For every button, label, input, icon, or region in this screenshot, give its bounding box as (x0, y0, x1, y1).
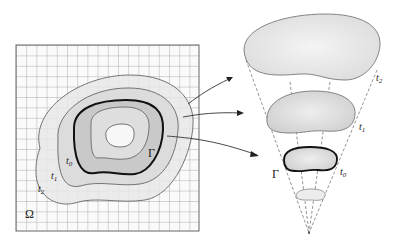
slice-label-t1: t1 (359, 121, 365, 134)
level-set-diagram: Ω Γ t0 t1 t2 t2 t1 t0 Γ (0, 0, 399, 247)
slice-t1 (267, 91, 355, 133)
front-label-gamma-right: Γ (272, 167, 279, 181)
slice-t0-front (284, 147, 337, 171)
cone-apex (308, 232, 310, 234)
slice-label-t0: t0 (340, 166, 347, 179)
front-label-gamma-left: Γ (148, 146, 155, 160)
arrow-heads (226, 77, 259, 157)
domain-label-omega: Ω (25, 207, 34, 221)
slice-bottom (296, 189, 325, 200)
level-set-hole (106, 124, 134, 147)
slice-label-t2: t2 (376, 72, 383, 85)
slice-t2 (244, 14, 380, 80)
